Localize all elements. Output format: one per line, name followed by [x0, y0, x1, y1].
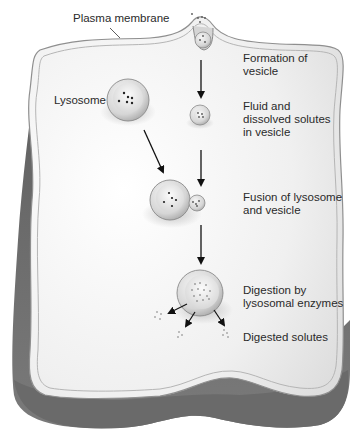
- label-lysosome: Lysosome: [54, 94, 106, 107]
- plasma-membrane-leader: [110, 28, 120, 38]
- label-fluid-in-vesicle: Fluid and dissolved solutes in vesicle: [243, 100, 331, 139]
- label-digested-solutes: Digested solutes: [243, 331, 328, 344]
- label-fusion: Fusion of lysosome and vesicle: [243, 191, 342, 217]
- endocytosis-diagram: Plasma membrane Formation of vesicle Lys…: [0, 0, 364, 441]
- forming-vesicle: [195, 32, 211, 48]
- label-digestion: Digestion by lysosomal enzymes: [243, 284, 343, 310]
- label-formation-of-vesicle: Formation of vesicle: [243, 52, 308, 78]
- cell-illustration: [0, 0, 364, 441]
- label-plasma-membrane: Plasma membrane: [73, 12, 170, 25]
- fusing-vesicle: [189, 195, 205, 211]
